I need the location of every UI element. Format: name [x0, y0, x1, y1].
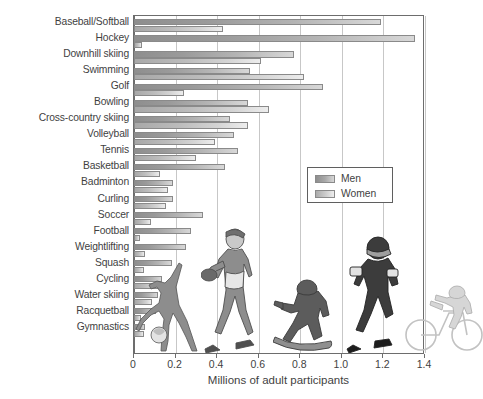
x-tick-mark [299, 354, 300, 358]
bar-men [134, 148, 238, 154]
category-label: Swimming [83, 64, 129, 75]
category-label: Water skiing [75, 289, 129, 300]
x-tick-label: 1.4 [417, 358, 432, 370]
bar-men [134, 100, 248, 106]
bar-group [134, 292, 425, 307]
legend-swatch-women-icon [315, 190, 335, 198]
bar-group [134, 19, 425, 34]
category-label: Weightlifting [75, 241, 129, 252]
bar-women [134, 26, 223, 32]
bar-women [134, 299, 152, 305]
bar-women [134, 203, 166, 209]
bar-group [134, 212, 425, 227]
category-label: Badminton [81, 176, 129, 187]
category-label: Curling [97, 193, 129, 204]
bar-men [134, 308, 156, 314]
bar-group [134, 147, 425, 162]
x-tick-label: 0.2 [167, 358, 182, 370]
bar-women [134, 315, 141, 321]
bar-group [134, 51, 425, 66]
x-tick-label: 0.8 [292, 358, 307, 370]
bar-men [134, 196, 173, 202]
bar-women [134, 122, 248, 128]
bar-men [134, 180, 173, 186]
category-label: Golf [111, 80, 129, 91]
bar-men [134, 84, 323, 90]
bar-women [134, 90, 184, 96]
bar-group [134, 131, 425, 146]
bar-group [134, 260, 425, 275]
x-tick-label: 0.4 [209, 358, 224, 370]
bar-men [134, 260, 172, 266]
category-label: Hockey [96, 32, 129, 43]
bar-group [134, 244, 425, 259]
legend-label-women: Women [341, 188, 376, 199]
legend-swatch-men-icon [315, 175, 335, 183]
legend-label-men: Men [341, 173, 361, 184]
legend-item-men: Men [315, 172, 361, 185]
x-tick-mark [175, 354, 176, 358]
bar-women [134, 219, 151, 225]
bar-group [134, 99, 425, 114]
bar-women [134, 267, 144, 273]
gridline-1.4 [425, 16, 426, 353]
bar-group [134, 228, 425, 243]
bar-group [134, 324, 425, 339]
category-label: Gymnastics [77, 321, 129, 332]
bar-men [134, 276, 162, 282]
bar-group [134, 276, 425, 291]
x-tick-label: 0 [130, 358, 136, 370]
bar-group [134, 83, 425, 98]
category-label: Basketball [83, 160, 129, 171]
legend: Men Women [307, 167, 393, 203]
category-label: Racquetball [76, 305, 129, 316]
bar-men [134, 51, 294, 57]
x-tick-mark [424, 354, 425, 358]
bar-men [134, 244, 186, 250]
bar-men [134, 228, 191, 234]
bar-group [134, 67, 425, 82]
bar-women [134, 42, 142, 48]
bar-men [134, 132, 234, 138]
bar-women [134, 139, 215, 145]
bar-women [134, 331, 144, 337]
bar-women [134, 235, 140, 241]
category-label: Tennis [100, 144, 129, 155]
bar-group [134, 35, 425, 50]
bar-women [134, 155, 196, 161]
x-tick-mark [258, 354, 259, 358]
category-label: Volleyball [87, 128, 129, 139]
x-tick-mark [341, 354, 342, 358]
x-tick-mark [216, 354, 217, 358]
bar-group [134, 308, 425, 323]
bar-women [134, 74, 304, 80]
x-tick-label: 1.2 [375, 358, 390, 370]
bar-women [134, 187, 168, 193]
bar-men [134, 164, 225, 170]
bar-men [134, 292, 158, 298]
bar-women [134, 171, 160, 177]
bar-men [134, 116, 230, 122]
x-tick-label: 0.6 [250, 358, 265, 370]
category-axis-labels: Baseball/SoftballHockeyDownhill skiingSw… [0, 15, 129, 354]
x-axis-title: Millions of adult participants [133, 374, 424, 386]
category-label: Baseball/Softball [55, 16, 129, 27]
bar-men [134, 35, 415, 41]
category-label: Football [94, 225, 129, 236]
bar-men [134, 19, 381, 25]
category-label: Bowling [94, 96, 129, 107]
x-tick-mark [382, 354, 383, 358]
category-label: Soccer [98, 209, 129, 220]
category-label: Downhill skiing [63, 48, 129, 59]
bar-women [134, 283, 159, 289]
bar-group [134, 115, 425, 130]
legend-item-women: Women [315, 187, 376, 200]
x-tick-mark [133, 354, 134, 358]
bar-women [134, 106, 269, 112]
bar-men [134, 212, 203, 218]
category-label: Squash [95, 257, 129, 268]
x-tick-label: 1.0 [334, 358, 349, 370]
bar-women [134, 58, 261, 64]
bar-men [134, 68, 250, 74]
